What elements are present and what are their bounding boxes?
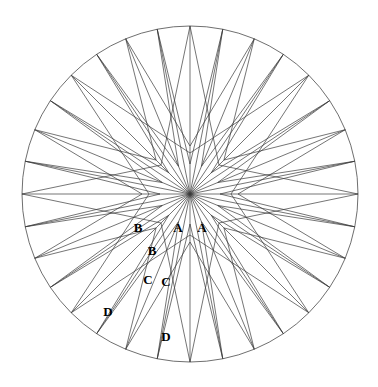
point-label-b-0: B — [134, 220, 143, 235]
rose-point-c-4 — [126, 228, 190, 349]
rose-point-c-7 — [126, 39, 190, 160]
rose-spoke-4 — [190, 75, 309, 194]
rose-point-c-1 — [224, 130, 345, 194]
rose-spoke-30 — [126, 39, 190, 194]
rose-point-c-0 — [190, 39, 254, 160]
rose-spoke-6 — [190, 130, 345, 194]
point-label-c-5: C — [161, 274, 170, 289]
rose-spoke-10 — [190, 194, 345, 258]
point-label-a-2: A — [197, 220, 207, 235]
compass-rose-figure: BAABCCDD — [0, 0, 378, 387]
rose-spoke-22 — [35, 194, 190, 258]
compass-rays-group — [22, 26, 358, 362]
rose-spoke-12 — [190, 194, 309, 313]
point-label-b-3: B — [148, 243, 157, 258]
compass-rose-svg: BAABCCDD — [0, 0, 378, 387]
rose-spoke-14 — [190, 194, 254, 349]
point-label-c-4: C — [143, 272, 152, 287]
rose-spoke-2 — [190, 39, 254, 194]
rose-point-c-6 — [35, 130, 156, 194]
compass-labels-group: BAABCCDD — [103, 220, 207, 344]
point-label-d-6: D — [103, 304, 112, 319]
rose-spoke-20 — [71, 194, 190, 313]
rose-spoke-26 — [35, 130, 190, 194]
rose-point-c-2 — [224, 194, 345, 258]
point-label-d-7: D — [161, 329, 170, 344]
rose-spoke-28 — [71, 75, 190, 194]
rose-spoke-18 — [126, 194, 190, 349]
point-label-a-1: A — [173, 220, 183, 235]
rose-point-c-3 — [190, 228, 254, 349]
